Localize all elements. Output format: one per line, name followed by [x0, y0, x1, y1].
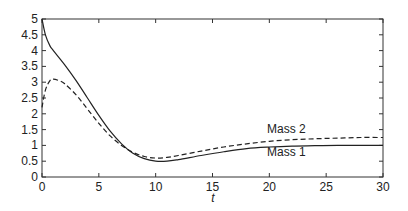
y-tick-label: 5	[31, 12, 38, 26]
x-tick-label: 0	[39, 180, 46, 194]
series-mass-2	[42, 79, 383, 158]
x-tick-label: 5	[95, 180, 102, 194]
y-tick-label: 0	[31, 170, 38, 184]
y-tick-label: 3	[31, 75, 38, 89]
annotation-mass-1: Mass 1	[267, 145, 306, 159]
x-tick-label: 25	[319, 180, 333, 194]
y-tick-label: 4	[31, 44, 38, 58]
y-tick-label: 1.5	[21, 123, 38, 137]
x-tick-label: 30	[376, 180, 390, 194]
y-tick-label: 1	[31, 138, 38, 152]
y-tick-label: 4.5	[21, 28, 38, 42]
y-tick-label: 2	[31, 107, 38, 121]
x-tick-label: 10	[149, 180, 163, 194]
series-lines	[42, 19, 383, 161]
y-tick-label: 3.5	[21, 59, 38, 73]
y-axis: 00.511.522.533.544.55	[21, 12, 383, 184]
line-chart: 00.511.522.533.544.55 051015202530 Mass …	[0, 0, 408, 211]
y-tick-label: 0.5	[21, 154, 38, 168]
series-mass-1	[42, 19, 383, 161]
annotation-mass-2: Mass 2	[267, 122, 306, 136]
x-tick-label: 20	[263, 180, 277, 194]
y-tick-label: 2.5	[21, 91, 38, 105]
x-axis: 051015202530	[39, 19, 390, 194]
